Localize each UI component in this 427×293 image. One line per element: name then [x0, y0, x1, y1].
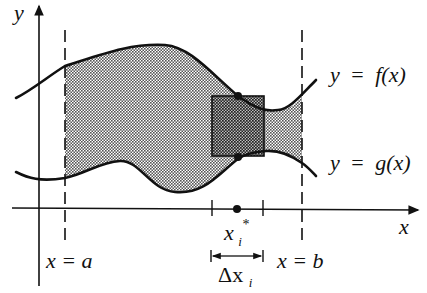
- point-on-g: [234, 153, 242, 161]
- point-on-f: [234, 92, 242, 100]
- label-delta-symbol: Δx: [218, 262, 243, 287]
- label-sample-point: x i *: [223, 217, 249, 251]
- label-g-gx: g(x): [375, 150, 410, 175]
- sample-point-marker: [233, 205, 241, 213]
- label-f-fx: f(x): [375, 62, 406, 87]
- representative-rectangle: [212, 96, 264, 156]
- label-delta-sub: i: [249, 275, 253, 290]
- x-axis-label: x: [398, 214, 409, 239]
- label-x-equals-b: x = b: [276, 248, 324, 273]
- label-f-y: y: [328, 62, 340, 87]
- y-axis-label: y: [12, 0, 24, 25]
- label-delta-x: Δx i: [218, 262, 253, 290]
- label-g: y = g(x): [328, 150, 411, 175]
- region-between-curves-diagram: y x y = f(x) y = g(x) x = a x = b x i * …: [0, 0, 427, 293]
- diagram-canvas: y x y = f(x) y = g(x) x = a x = b x i * …: [0, 0, 427, 293]
- label-sample-sup: *: [242, 217, 249, 232]
- label-g-y: y: [328, 150, 340, 175]
- label-f-eq: =: [351, 62, 363, 87]
- x-axis: [12, 208, 418, 210]
- label-f: y = f(x): [328, 62, 406, 87]
- label-x-equals-a: x = a: [45, 248, 93, 273]
- label-sample-sub: i: [238, 234, 242, 249]
- label-g-eq: =: [351, 150, 363, 175]
- label-sample-x: x: [223, 220, 234, 245]
- shaded-region: [65, 45, 302, 192]
